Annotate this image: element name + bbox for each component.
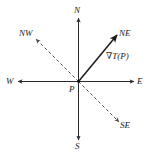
label-point-p: P bbox=[69, 85, 75, 94]
label-north: N bbox=[74, 6, 80, 15]
label-northeast: NE bbox=[119, 29, 131, 38]
label-gradient-vector: ∇T(P) bbox=[106, 52, 129, 61]
label-northwest: NW bbox=[19, 29, 33, 38]
dashed-line-southeast bbox=[79, 82, 120, 123]
label-west: W bbox=[6, 77, 14, 86]
label-southeast: SE bbox=[120, 121, 130, 130]
origin-point-marker bbox=[77, 80, 80, 83]
figure-canvas bbox=[0, 0, 152, 158]
dashed-line-northwest bbox=[36, 39, 79, 82]
gradient-compass-figure: N S E W NE NW SE P ∇T(P) bbox=[0, 0, 152, 158]
label-south: S bbox=[75, 142, 80, 151]
label-east: E bbox=[137, 77, 143, 86]
